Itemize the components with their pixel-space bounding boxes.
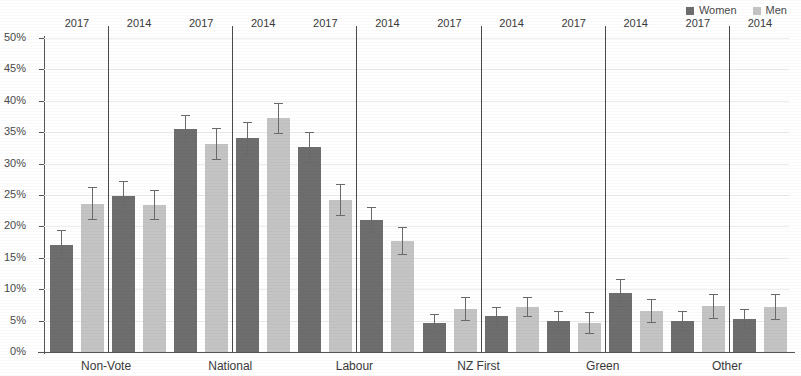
error-bar-stem	[340, 184, 341, 215]
gridline	[44, 69, 789, 70]
error-bar-cap-top	[523, 297, 532, 298]
error-bar	[360, 207, 383, 233]
legend-label: Women	[699, 5, 737, 16]
error-bar-stem	[154, 190, 155, 220]
group-separator	[481, 26, 482, 352]
y-axis-tick	[39, 352, 44, 353]
bar-national-2014-women	[236, 138, 259, 352]
error-bar-cap-bottom	[461, 320, 470, 321]
error-bar-cap-top	[492, 307, 501, 308]
error-bar-cap-bottom	[647, 322, 656, 323]
y-axis-tick	[39, 195, 44, 196]
bar-labour-2017-women	[298, 147, 321, 352]
legend-swatch-icon	[753, 7, 761, 15]
error-bar	[50, 230, 73, 259]
bar-non-vote-2017-men	[81, 204, 104, 352]
error-bar-cap-top	[771, 294, 780, 295]
y-axis-tick-label: 15%	[0, 252, 26, 263]
error-bar-cap-bottom	[367, 232, 376, 233]
error-bar-stem	[309, 132, 310, 163]
error-bar-stem	[123, 181, 124, 212]
year-label-2017: 2017	[179, 18, 223, 29]
y-axis-tick-label: 10%	[0, 283, 26, 294]
y-axis-tick-label: 35%	[0, 126, 26, 137]
gridline	[44, 38, 789, 39]
error-bar	[267, 103, 290, 134]
bar-non-vote-2014-women	[112, 196, 135, 352]
bar-labour-2014-men	[391, 241, 414, 352]
error-bar	[329, 184, 352, 215]
bar-national-2017-men	[205, 144, 228, 352]
error-bar-cap-top	[709, 294, 718, 295]
error-bar	[143, 190, 166, 220]
error-bar-stem	[527, 297, 528, 317]
error-bar-stem	[61, 230, 62, 259]
error-bar	[764, 294, 787, 320]
error-bar-cap-bottom	[398, 254, 407, 255]
y-axis-tick	[39, 226, 44, 227]
error-bar	[81, 187, 104, 220]
year-label-2014: 2014	[614, 18, 658, 29]
group-separator	[232, 26, 233, 352]
error-bar-stem	[651, 299, 652, 323]
error-bar-cap-bottom	[243, 154, 252, 155]
error-bar-cap-bottom	[523, 316, 532, 317]
error-bar	[205, 128, 228, 161]
error-bar-cap-bottom	[57, 258, 66, 259]
error-bar-cap-top	[678, 311, 687, 312]
error-bar-stem	[92, 187, 93, 220]
error-bar	[640, 299, 663, 323]
error-bar-cap-top	[88, 187, 97, 188]
error-bar-cap-top	[554, 311, 563, 312]
y-axis-tick-label: 50%	[0, 32, 26, 43]
plot-area: 0%5%10%15%20%25%30%35%40%45%50%Non-Vote2…	[44, 38, 789, 352]
y-axis-tick	[39, 132, 44, 133]
bar-national-2014-men	[267, 118, 290, 352]
error-bar-cap-top	[740, 309, 749, 310]
y-axis-tick	[39, 321, 44, 322]
y-axis-tick	[39, 38, 44, 39]
error-bar	[671, 311, 694, 331]
error-bar-cap-bottom	[119, 211, 128, 212]
x-axis-line	[38, 352, 795, 353]
error-bar-stem	[216, 128, 217, 161]
year-label-2017: 2017	[676, 18, 720, 29]
bar-non-vote-2017-women	[50, 245, 73, 352]
legend-label: Men	[766, 5, 787, 16]
error-bar-cap-bottom	[150, 219, 159, 220]
error-bar-cap-top	[616, 279, 625, 280]
group-separator	[605, 26, 606, 352]
error-bar-cap-bottom	[678, 330, 687, 331]
gridline	[44, 101, 789, 102]
bar-non-vote-2014-men	[143, 205, 166, 352]
error-bar-cap-bottom	[305, 162, 314, 163]
error-bar-cap-top	[305, 132, 314, 133]
x-axis-category-label: National	[170, 360, 290, 372]
error-bar-stem	[371, 207, 372, 233]
error-bar-cap-bottom	[492, 325, 501, 326]
y-axis-tick	[39, 289, 44, 290]
x-axis-category-label: NZ First	[419, 360, 539, 372]
year-label-2017: 2017	[552, 18, 596, 29]
y-axis-tick-label: 40%	[0, 95, 26, 106]
error-bar-stem	[278, 103, 279, 134]
error-bar-cap-top	[461, 297, 470, 298]
x-axis-category-label: Other	[667, 360, 787, 372]
error-bar-cap-top	[243, 122, 252, 123]
error-bar-cap-top	[181, 115, 190, 116]
error-bar-stem	[558, 311, 559, 331]
year-label-2017: 2017	[55, 18, 99, 29]
year-label-2017: 2017	[428, 18, 472, 29]
error-bar	[236, 122, 259, 155]
bar-labour-2017-men	[329, 200, 352, 352]
error-bar-stem	[775, 294, 776, 320]
bar-labour-2014-women	[360, 220, 383, 352]
error-bar-cap-bottom	[274, 133, 283, 134]
gridline	[44, 132, 789, 133]
error-bar	[516, 297, 539, 317]
x-axis-category-label: Non-Vote	[46, 360, 166, 372]
error-bar-cap-bottom	[554, 330, 563, 331]
year-label-2014: 2014	[738, 18, 782, 29]
legend-swatch-icon	[686, 7, 694, 15]
error-bar-stem	[682, 311, 683, 331]
